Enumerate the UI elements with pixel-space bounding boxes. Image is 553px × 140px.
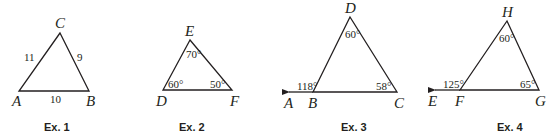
angle-c-value: 58° — [376, 80, 391, 92]
vertex-f-label: F — [454, 93, 465, 109]
example-4: H F G E 60° 125° 65° Ex. 4 — [427, 4, 546, 133]
vertex-a-label: A — [11, 93, 22, 109]
vertex-c-label: C — [394, 95, 405, 111]
side-ac-length: 11 — [24, 51, 35, 63]
example-2-caption: Ex. 2 — [179, 121, 205, 133]
angle-g-value: 65° — [520, 78, 535, 90]
angle-e-value: 70° — [186, 48, 201, 60]
angle-f-value: 50° — [210, 78, 225, 90]
ray-point-a-label: A — [283, 95, 294, 111]
example-3-caption: Ex. 3 — [341, 121, 367, 133]
vertex-g-label: G — [535, 93, 546, 109]
ray-point-e-label: E — [427, 93, 437, 109]
vertex-b-label: B — [86, 93, 95, 109]
vertex-b-label: B — [308, 95, 317, 111]
triangle-diagrams: C A B 11 9 10 Ex. 1 E D F 70° 60° 50° Ex… — [0, 0, 553, 140]
side-cb-length: 9 — [77, 51, 83, 63]
vertex-d-label: D — [155, 93, 167, 109]
angle-d-value: 60° — [168, 78, 183, 90]
example-2: E D F 70° 60° 50° Ex. 2 — [155, 23, 240, 133]
example-1-caption: Ex. 1 — [44, 121, 70, 133]
vertex-e-label: E — [184, 23, 194, 39]
example-1: C A B 11 9 10 Ex. 1 — [11, 15, 95, 133]
vertex-c-label: C — [55, 15, 66, 31]
vertex-f-label: F — [229, 93, 240, 109]
vertex-h-label: H — [501, 4, 514, 20]
exterior-angle-f-value: 125° — [443, 78, 464, 90]
exterior-angle-b-value: 118° — [297, 80, 318, 92]
vertex-d-label: D — [344, 0, 356, 16]
example-4-caption: Ex. 4 — [497, 121, 524, 133]
angle-d-value: 60° — [345, 28, 360, 40]
example-3: D B C A 60° 118° 58° Ex. 3 — [283, 0, 405, 133]
angle-h-value: 60° — [499, 32, 514, 44]
side-ab-length: 10 — [50, 93, 62, 105]
